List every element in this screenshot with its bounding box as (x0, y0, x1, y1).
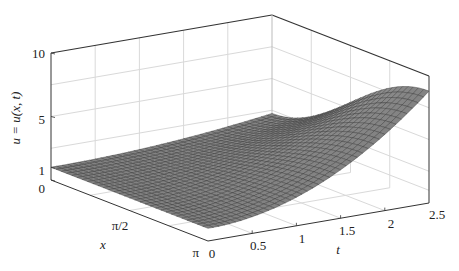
z-axis-label: u = u(x, t) (8, 92, 23, 145)
z-tick-1: 1 (39, 163, 46, 178)
t-axis-label: t (336, 242, 340, 257)
x-tick-pi-half: π/2 (112, 218, 129, 233)
z-tick-5: 5 (39, 112, 46, 127)
z-tick-10: 10 (32, 46, 45, 61)
t-tick-0: 0 (209, 246, 216, 261)
z-axis-ticks: 10 5 1 0 (32, 46, 45, 196)
z-tick-0: 0 (39, 181, 46, 196)
t-tick-1.5: 1.5 (339, 223, 355, 238)
t-tick-2: 2 (388, 216, 395, 231)
surface-mesh (51, 87, 429, 229)
x-tick-pi: π (192, 245, 199, 260)
x-axis-ticks: π/2 π (112, 218, 200, 260)
t-tick-1: 1 (299, 231, 306, 246)
t-tick-0.5: 0.5 (250, 238, 266, 253)
t-tick-2.5: 2.5 (429, 207, 445, 222)
surface-plot: 10 5 1 0 u = u(x, t) π/2 π x 0 0.5 1 1.5… (0, 0, 459, 271)
x-axis-label: x (99, 237, 106, 252)
